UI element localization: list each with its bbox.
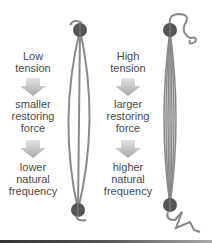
- high-tension-string: [163, 14, 200, 232]
- string-tension-diagram: Low tension smaller restoring force lowe…: [0, 0, 212, 243]
- lower-natural-frequency-label: lower natural frequency: [3, 161, 63, 197]
- larger-restoring-force-label: larger restoring force: [98, 98, 158, 134]
- higher-natural-frequency-label: higher natural frequency: [98, 161, 158, 197]
- smaller-restoring-force-label: smaller restoring force: [3, 98, 63, 134]
- low-tension-label: Low tension: [3, 50, 63, 74]
- down-arrow-icon: [20, 140, 46, 158]
- high-tension-label: High tension: [98, 50, 158, 74]
- down-arrow-icon: [115, 140, 141, 158]
- down-arrow-icon: [20, 78, 46, 96]
- bottom-coil-icon: [167, 212, 200, 232]
- down-arrow-icon: [115, 78, 141, 96]
- low-tension-string: [68, 21, 89, 221]
